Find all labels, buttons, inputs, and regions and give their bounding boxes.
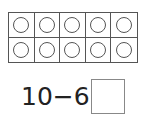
circle-icon [116, 17, 132, 33]
ten-frame-cell [35, 13, 61, 38]
ten-frame-cell [111, 38, 137, 63]
circle-icon [13, 42, 29, 58]
circle-icon [116, 42, 132, 58]
ten-frame-cell [35, 38, 61, 63]
circle-icon [13, 17, 29, 33]
circle-icon [64, 17, 80, 33]
ten-frame-cell [9, 13, 35, 38]
ten-frame-cell [60, 13, 86, 38]
ten-frame-cell [9, 38, 35, 63]
ten-frame-cell [86, 38, 112, 63]
circle-icon [90, 17, 106, 33]
circle-icon [64, 42, 80, 58]
circle-icon [39, 42, 55, 58]
ten-frame [8, 12, 138, 63]
ten-frame-cell [86, 13, 112, 38]
circle-icon [90, 42, 106, 58]
ten-frame-cell [60, 38, 86, 63]
answer-box[interactable] [91, 79, 125, 114]
circle-icon [39, 17, 55, 33]
ten-frame-cell [111, 13, 137, 38]
